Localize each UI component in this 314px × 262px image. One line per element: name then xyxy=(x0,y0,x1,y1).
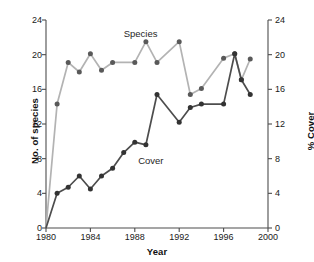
chart-figure: No. of species % Cover Year 04812162024 … xyxy=(0,0,314,262)
data-point xyxy=(177,120,182,125)
data-point xyxy=(221,102,226,107)
data-point xyxy=(110,166,115,171)
data-point xyxy=(88,187,93,192)
data-point xyxy=(177,39,182,44)
data-point xyxy=(132,140,137,145)
data-point xyxy=(110,60,115,65)
axis-lines xyxy=(46,20,268,228)
data-point xyxy=(143,142,148,147)
data-point xyxy=(88,51,93,56)
data-point xyxy=(199,102,204,107)
data-point xyxy=(132,60,137,65)
series-cover xyxy=(46,51,253,228)
data-point xyxy=(221,56,226,61)
data-point xyxy=(232,51,237,56)
data-point xyxy=(66,60,71,65)
data-point xyxy=(199,86,204,91)
plot-area xyxy=(0,0,314,262)
data-point xyxy=(77,70,82,75)
data-point xyxy=(155,92,160,97)
tick-marks xyxy=(42,20,272,232)
data-point xyxy=(77,174,82,179)
series-label-cover: Cover xyxy=(138,155,163,166)
series-layer xyxy=(46,39,253,228)
data-point xyxy=(99,68,104,73)
data-point xyxy=(55,102,60,107)
data-point xyxy=(239,77,244,82)
data-point xyxy=(99,174,104,179)
data-point xyxy=(155,60,160,65)
series-species xyxy=(46,39,253,228)
data-point xyxy=(143,39,148,44)
data-point xyxy=(121,150,126,155)
series-label-species: Species xyxy=(124,28,158,39)
data-point xyxy=(188,105,193,110)
data-point xyxy=(55,191,60,196)
data-point xyxy=(66,185,71,190)
data-point xyxy=(248,92,253,97)
data-point xyxy=(188,92,193,97)
data-point xyxy=(248,57,253,62)
